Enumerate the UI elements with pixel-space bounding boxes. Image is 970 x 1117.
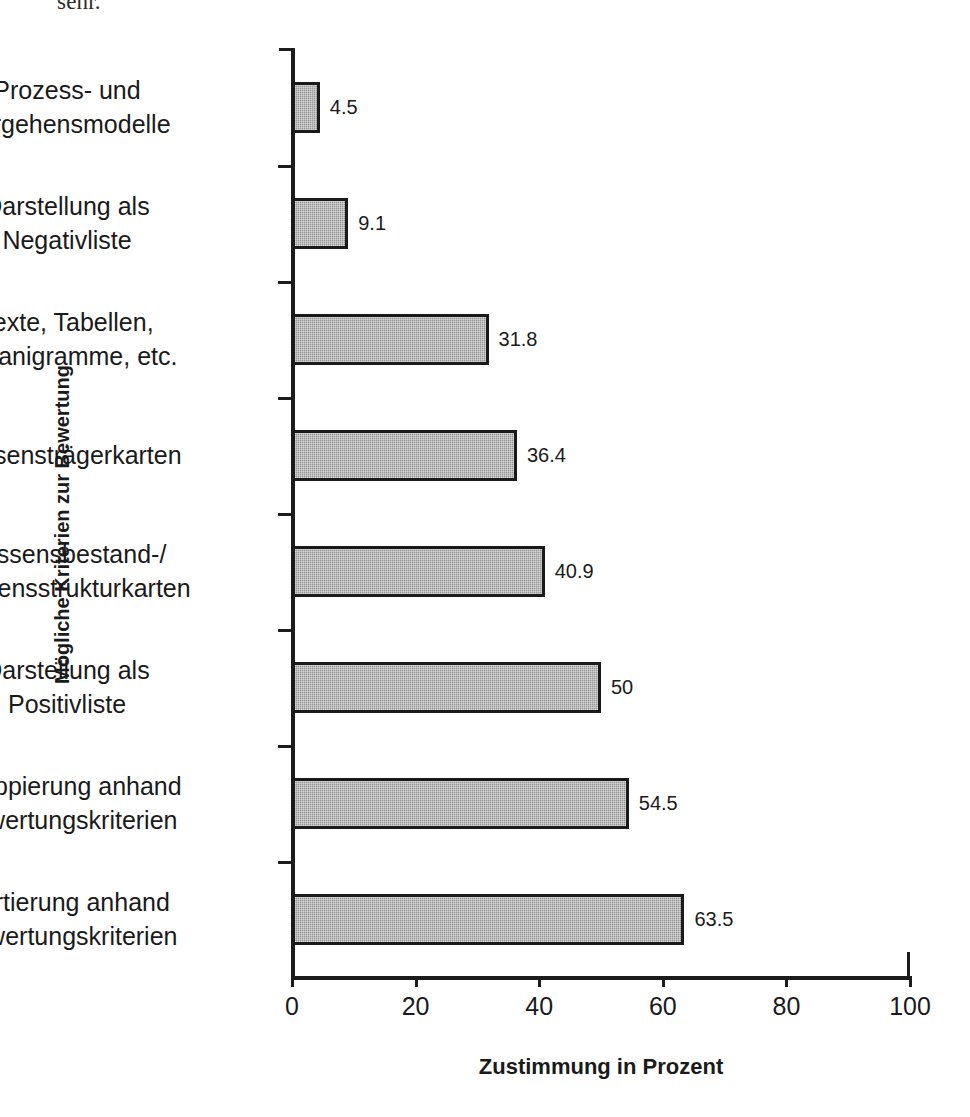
category-label: Darstellung alsPositivliste (0, 653, 277, 721)
bar-value-label: 9.1 (358, 212, 386, 235)
category-label: Prozess- undVorgehensmodelle (0, 73, 277, 141)
y-tick (278, 281, 292, 284)
bar[interactable] (292, 430, 517, 481)
y-axis-title: Mögliche Kriterien zur Bewertung (51, 225, 74, 825)
bar-value-label: 54.5 (639, 792, 678, 815)
category-label: Darstellung alsNegativliste (0, 189, 277, 257)
bar[interactable] (292, 198, 348, 249)
bar[interactable] (292, 894, 684, 945)
bar-row: 54.5Gruppierung anhandBewertungskriterie… (0, 778, 970, 829)
category-label: Sortierung anhandBewertungskriterien (0, 885, 277, 953)
x-tick-label: 40 (499, 992, 579, 1021)
bar[interactable] (292, 314, 489, 365)
bar-value-label: 4.5 (330, 96, 358, 119)
bar-chart: 020406080100 4.5Prozess- undVorgehensmod… (0, 0, 970, 1117)
x-tick-label: 100 (870, 992, 950, 1021)
category-label: Wissensbestand-/Wissensstrukturkarten (0, 537, 277, 605)
y-tick (278, 165, 292, 168)
x-axis-line (291, 976, 911, 980)
bar-row: 63.5Sortierung anhandBewertungskriterien (0, 894, 970, 945)
bar-row: 36.4Wissensträgerkarten (0, 430, 970, 481)
y-tick (278, 745, 292, 748)
x-tick (538, 976, 541, 987)
x-tick (909, 976, 912, 987)
x-tick-label: 0 (252, 992, 332, 1021)
bar[interactable] (292, 82, 320, 133)
bar-row: 4.5Prozess- undVorgehensmodelle (0, 82, 970, 133)
y-tick (278, 629, 292, 632)
category-label: Gruppierung anhandBewertungskriterien (0, 769, 277, 837)
x-tick (785, 976, 788, 987)
bar-value-label: 31.8 (499, 328, 538, 351)
category-label: Texte, Tabellen,Organigramme, etc. (0, 305, 277, 373)
y-tick (278, 397, 292, 400)
bar-value-label: 36.4 (527, 444, 566, 467)
y-axis-top-tick (279, 48, 293, 51)
bar-row: 9.1Darstellung alsNegativliste (0, 198, 970, 249)
x-tick (291, 976, 294, 987)
x-tick-label: 80 (746, 992, 826, 1021)
bar-value-label: 50 (611, 676, 633, 699)
x-tick-label: 60 (623, 992, 703, 1021)
x-tick (415, 976, 418, 987)
bar-row: 40.9Wissensbestand-/Wissensstrukturkarte… (0, 546, 970, 597)
x-axis-title: Zustimmung in Prozent (291, 1054, 911, 1080)
bar-row: 31.8Texte, Tabellen,Organigramme, etc. (0, 314, 970, 365)
y-tick (278, 513, 292, 516)
bar-value-label: 63.5 (694, 908, 733, 931)
bar-row: 50Darstellung alsPositivliste (0, 662, 970, 713)
bar[interactable] (292, 662, 601, 713)
bar[interactable] (292, 778, 629, 829)
x-tick (662, 976, 665, 987)
x-axis-end-cap (907, 952, 910, 978)
bar-value-label: 40.9 (555, 560, 594, 583)
category-label: Wissensträgerkarten (0, 438, 277, 472)
x-tick-label: 20 (376, 992, 456, 1021)
y-tick (278, 861, 292, 864)
bar[interactable] (292, 546, 545, 597)
